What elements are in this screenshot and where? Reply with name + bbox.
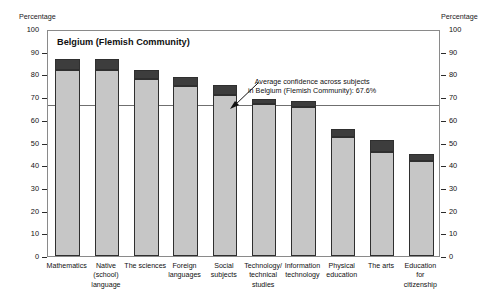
y-tick-label-right-10: 10 [449,230,457,237]
y-tick-label-left-100: 100 [27,26,39,33]
y-tick-mark-left-40 [42,166,47,167]
y-tick-mark-right-0 [441,257,446,258]
y-tick-mark-right-80 [441,75,446,76]
y-tick-mark-left-50 [42,144,47,145]
y-axis-right-caption: Percentage [441,12,478,21]
y-tick-mark-right-70 [441,98,446,99]
y-tick-mark-right-90 [441,53,446,54]
bar-segment-upper[interactable] [370,140,395,151]
bar-segment-lower[interactable] [173,86,198,256]
bar-group[interactable] [134,29,159,256]
bar-segment-lower[interactable] [370,152,395,256]
chart-container: Percentage Percentage 001010202030304040… [0,0,488,306]
y-tick-label-right-70: 70 [449,94,457,101]
bar-segment-upper[interactable] [134,70,159,79]
y-tick-label-left-90: 90 [31,49,39,56]
y-tick-label-right-50: 50 [449,140,457,147]
y-tick-label-left-20: 20 [31,208,39,215]
y-tick-mark-left-80 [42,75,47,76]
y-tick-label-right-60: 60 [449,117,457,124]
average-annotation-line2: in Belgium (Flemish Community): 67.6% [248,86,376,96]
y-tick-label-right-100: 100 [449,26,461,33]
y-tick-label-left-60: 60 [31,117,39,124]
annotation-arrow-icon [228,82,260,110]
y-tick-mark-left-90 [42,53,47,54]
y-tick-label-left-50: 50 [31,140,39,147]
bar-group[interactable] [291,29,316,256]
y-tick-label-left-80: 80 [31,71,39,78]
bar-segment-upper[interactable] [95,59,120,70]
bar-segment-upper[interactable] [331,129,356,137]
y-tick-mark-right-40 [441,166,446,167]
bar-group[interactable] [252,29,277,256]
x-axis-label-line: (school) [83,271,128,280]
bar-segment-upper[interactable] [409,154,434,161]
bar-group[interactable] [213,29,238,256]
average-annotation: Average confidence across subjects in Be… [248,77,376,96]
y-tick-mark-right-60 [441,121,446,122]
bar-segment-upper[interactable] [291,101,316,107]
y-tick-label-left-0: 0 [35,253,39,260]
y-tick-mark-left-0 [42,257,47,258]
y-tick-label-right-30: 30 [449,185,457,192]
y-tick-label-left-30: 30 [31,185,39,192]
bar-segment-lower[interactable] [291,107,316,256]
y-tick-label-left-70: 70 [31,94,39,101]
x-axis-label-line: for [398,271,443,280]
y-axis-left-caption: Percentage [19,12,56,21]
bar-segment-lower[interactable] [213,95,238,256]
plot-area [47,30,440,257]
y-tick-mark-left-70 [42,98,47,99]
y-tick-mark-right-50 [441,144,446,145]
y-tick-label-right-40: 40 [449,162,457,169]
bar-segment-lower[interactable] [95,70,120,256]
bar-segment-upper[interactable] [55,59,80,70]
y-tick-label-left-10: 10 [31,230,39,237]
x-axis-label-line: citizenship [398,281,443,290]
bar-segment-lower[interactable] [55,70,80,256]
x-axis-label-line: education [319,271,364,280]
bar-segment-lower[interactable] [134,79,159,256]
bar-group[interactable] [55,29,80,256]
y-tick-mark-right-30 [441,189,446,190]
y-tick-mark-left-10 [42,234,47,235]
x-axis-label-line: language [83,281,128,290]
y-tick-label-right-90: 90 [449,49,457,56]
x-axis-label-line: studies [241,281,286,290]
y-tick-label-left-40: 40 [31,162,39,169]
y-tick-label-right-80: 80 [449,71,457,78]
y-tick-mark-left-20 [42,212,47,213]
y-tick-label-right-0: 0 [449,253,453,260]
y-tick-mark-right-10 [441,234,446,235]
bar-segment-lower[interactable] [252,104,277,256]
y-tick-mark-left-30 [42,189,47,190]
x-axis-label-line: Education [398,262,443,271]
bar-group[interactable] [331,29,356,256]
bar-group[interactable] [173,29,198,256]
bar-segment-upper[interactable] [173,77,198,86]
bar-segment-lower[interactable] [331,137,356,256]
chart-title: Belgium (Flemish Community) [57,37,190,47]
y-tick-mark-right-20 [441,212,446,213]
average-annotation-line1: Average confidence across subjects [248,77,376,87]
bar-group[interactable] [409,29,434,256]
bar-segment-lower[interactable] [409,161,434,256]
bar-group[interactable] [370,29,395,256]
y-tick-label-right-20: 20 [449,208,457,215]
y-tick-mark-left-60 [42,121,47,122]
bar-group[interactable] [95,29,120,256]
x-axis-label: Educationforcitizenship [398,262,443,290]
